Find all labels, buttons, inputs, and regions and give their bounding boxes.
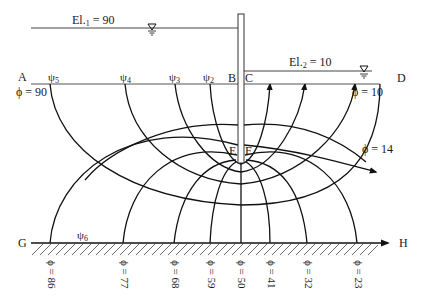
point-h-label: H — [399, 237, 408, 249]
psi2-symbol: ψ — [203, 71, 210, 83]
phi-77-label: ϕ = 77 — [119, 260, 130, 289]
psi6-symbol: ψ — [77, 229, 84, 241]
psi3-sub: 3 — [176, 76, 180, 85]
flow-line-label-psi4: ψ4 — [120, 72, 131, 85]
equipotential-41 — [246, 162, 270, 243]
point-f-label: F — [245, 145, 252, 157]
phi-upstream-label: ϕ = 90 — [16, 86, 47, 98]
psi2-sub: 2 — [210, 76, 214, 85]
phi-downstream-label: ϕ = 10 — [352, 86, 383, 98]
point-a-label: A — [18, 71, 27, 83]
flow-line-label-psi6: ψ6 — [77, 230, 88, 243]
upstream-water-symbol-icon — [148, 24, 156, 35]
equipotential-32 — [246, 160, 307, 243]
downstream-water-symbol-icon — [360, 66, 368, 78]
psi6-sub: 6 — [84, 234, 88, 243]
psi4-symbol: ψ — [120, 71, 127, 83]
point-c-label: C — [245, 72, 253, 84]
point-d-label: D — [397, 72, 406, 84]
flow-line-label-psi2: ψ2 — [203, 72, 214, 85]
equipotential-86 — [50, 137, 238, 243]
upstream-elevation-label: El.1 = 90 — [72, 14, 114, 28]
upstream-el-prefix: El. — [72, 13, 86, 27]
sheet-pile — [238, 14, 244, 163]
psi5-sub: 5 — [55, 76, 59, 85]
point-e-label: E — [229, 145, 236, 157]
phi-23-label: ϕ = 23 — [353, 260, 364, 289]
psi3-symbol: ψ — [169, 71, 176, 83]
base-hatching — [32, 243, 378, 255]
upstream-el-value: = 90 — [90, 13, 115, 27]
downstream-elevation-label: El.2 = 10 — [289, 56, 331, 70]
psi5-symbol: ψ — [48, 71, 55, 83]
phi-86-label: ϕ = 86 — [46, 260, 57, 289]
point-g-label: G — [18, 237, 27, 249]
downstream-el-value: = 10 — [307, 55, 332, 69]
phi-14-label: ϕ = 14 — [362, 143, 393, 155]
flow-line-psi5 — [50, 84, 380, 205]
phi-59-label: ϕ = 59 — [206, 260, 217, 289]
phi-41-label: ϕ = 41 — [266, 260, 277, 289]
phi-50-label: ϕ = 50 — [236, 260, 247, 289]
point-b-label: B — [228, 72, 236, 84]
phi-68-label: ϕ = 68 — [170, 260, 181, 289]
downstream-el-prefix: El. — [289, 55, 303, 69]
phi-32-label: ϕ = 32 — [303, 260, 314, 289]
flow-line-label-psi3: ψ3 — [169, 72, 180, 85]
flow-line-label-psi5: ψ5 — [48, 72, 59, 85]
flow-arrow-exit — [244, 145, 376, 172]
psi4-sub: 4 — [127, 76, 131, 85]
